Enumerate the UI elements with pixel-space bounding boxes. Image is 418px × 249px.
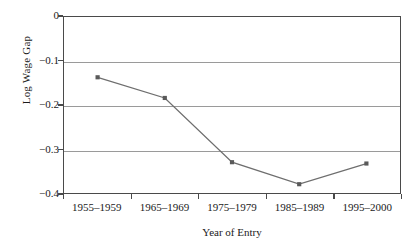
series-line	[98, 77, 367, 184]
chart-figure: Log Wage Gap 0 −0.1 −0.2 −0.3 −0.4 1955–…	[0, 0, 418, 249]
y-tick-label: −0.4	[17, 188, 59, 199]
x-tick-label: 1995–2000	[342, 201, 392, 214]
x-axis-tick-labels: 1955–1959 1965–1969 1975–1979 1985–1989 …	[63, 201, 401, 217]
x-tick-mark	[131, 194, 132, 199]
x-tick-label: 1955–1959	[72, 201, 122, 214]
y-tick-label: −0.1	[17, 55, 59, 66]
data-point-marker	[297, 182, 301, 186]
data-point-marker	[163, 96, 167, 100]
x-tick-label: 1975–1979	[207, 201, 257, 214]
x-tick-mark	[333, 194, 334, 199]
x-tick-mark	[63, 194, 64, 199]
plot-area	[63, 16, 401, 194]
x-tick-label: 1985–1989	[275, 201, 325, 214]
y-tick-label: −0.3	[17, 144, 59, 155]
x-axis-title: Year of Entry	[63, 226, 401, 238]
data-series-line	[64, 17, 400, 193]
y-tick-label: −0.2	[17, 99, 59, 110]
x-tick-mark	[266, 194, 267, 199]
x-tick-mark	[401, 194, 402, 199]
y-tick-label: 0	[17, 10, 59, 21]
y-axis-tick-labels: 0 −0.1 −0.2 −0.3 −0.4	[12, 16, 59, 194]
x-tick-mark	[198, 194, 199, 199]
data-point-marker	[364, 161, 368, 165]
data-point-marker	[230, 160, 234, 164]
data-point-marker	[96, 75, 100, 79]
x-tick-label: 1965–1969	[140, 201, 190, 214]
